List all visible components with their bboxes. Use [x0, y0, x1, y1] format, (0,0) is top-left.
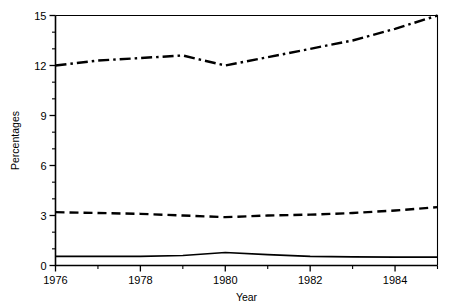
- y-tick-label: 12: [34, 60, 46, 72]
- x-tick-label: 1976: [43, 274, 67, 286]
- y-tick-label: 0: [40, 260, 46, 272]
- y-tick-label: 6: [40, 160, 46, 172]
- x-tick-label: 1978: [128, 274, 152, 286]
- chart-figure: 03691215 19761978198019821984 Percentage…: [0, 0, 450, 308]
- y-tick-label: 3: [40, 210, 46, 222]
- y-axis-title: Percentages: [9, 111, 21, 170]
- x-tick-label: 1980: [213, 274, 237, 286]
- x-tick-label: 1984: [383, 274, 407, 286]
- line-chart: 03691215 19761978198019821984 Percentage…: [0, 0, 450, 308]
- y-tick-label: 9: [40, 110, 46, 122]
- chart-background: [0, 0, 450, 308]
- x-tick-label: 1982: [298, 274, 322, 286]
- y-tick-label: 15: [34, 10, 46, 22]
- x-axis-title: Year: [236, 291, 258, 303]
